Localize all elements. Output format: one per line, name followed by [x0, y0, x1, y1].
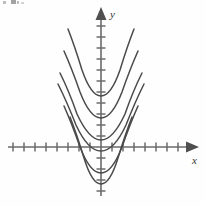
y-axis-arrowhead [96, 7, 107, 20]
x-axis-arrowhead [186, 142, 199, 153]
x-axis-label: x [192, 155, 197, 166]
axes-group [8, 7, 199, 196]
y-axis-label: y [110, 9, 115, 20]
coordinate-plane [0, 0, 206, 206]
parabola-family-figure: y x [0, 0, 206, 206]
